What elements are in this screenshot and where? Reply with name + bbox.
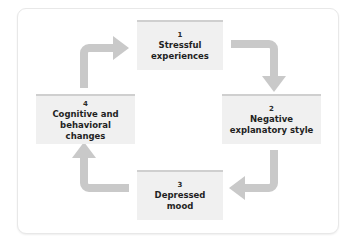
arrow-1-to-2-icon: [231, 40, 286, 92]
node-2-number: 2: [269, 104, 274, 114]
diagram-node-4[interactable]: 4 Cognitive and behavioral changes: [36, 94, 135, 144]
node-1-number: 1: [178, 30, 183, 40]
arrow-3-to-4-icon: [72, 142, 129, 192]
diagram-node-1[interactable]: 1 Stressful experiences: [137, 20, 223, 70]
diagram-node-3[interactable]: 3 Depressed mood: [137, 170, 223, 220]
node-1-label: Stressful experiences: [148, 40, 212, 62]
diagram-node-2[interactable]: 2 Negative explanatory style: [222, 94, 321, 144]
diagram-page: 1 Stressful experiences 2 Negative expla…: [0, 0, 357, 250]
arrow-4-to-1-icon: [80, 36, 129, 88]
node-3-number: 3: [178, 180, 183, 190]
arrow-2-to-3-icon: [229, 150, 278, 200]
node-2-label: Negative explanatory style: [227, 114, 317, 136]
node-3-label: Depressed mood: [152, 190, 209, 212]
node-4-number: 4: [83, 99, 88, 109]
node-4-label: Cognitive and behavioral changes: [36, 109, 135, 142]
